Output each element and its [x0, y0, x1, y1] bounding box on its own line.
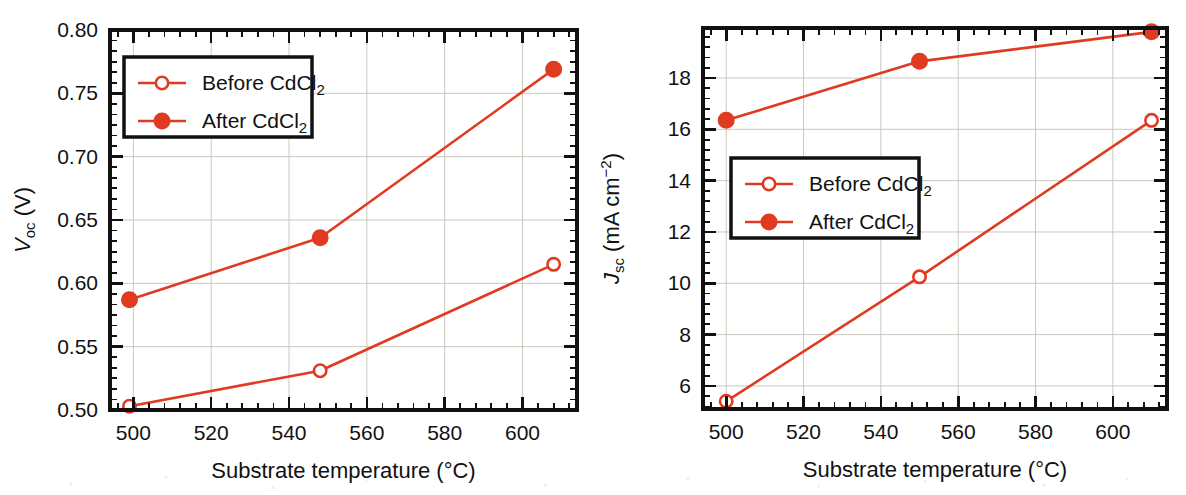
data-point-marker [122, 292, 137, 307]
y-tick-label: 10 [668, 271, 691, 294]
y-tick-label: 16 [668, 117, 691, 140]
data-point-marker [912, 54, 927, 69]
data-point-marker [1145, 114, 1157, 126]
legend-label: Before CdCl2 [809, 172, 932, 199]
data-point-marker [547, 258, 559, 270]
data-point-marker [546, 62, 561, 77]
data-point-marker [313, 230, 328, 245]
x-tick-label: 600 [505, 421, 540, 444]
legend: Before CdCl2After CdCl2 [731, 158, 932, 238]
legend-marker-open [763, 178, 775, 190]
x-tick-label: 580 [427, 421, 462, 444]
legend-marker-filled [762, 215, 777, 230]
x-tick-label: 600 [1095, 420, 1130, 443]
y-tick-label: 8 [679, 323, 691, 346]
y-tick-label: 0.75 [57, 81, 98, 104]
y-axis-title: Voc (V) [10, 187, 38, 253]
y-tick-label: 0.60 [57, 271, 98, 294]
x-tick-label: 580 [1018, 420, 1053, 443]
x-axis-title: Substrate temperature (°C) [803, 457, 1067, 482]
x-axis-title: Substrate temperature (°C) [211, 458, 475, 483]
x-tick-label: 540 [271, 421, 306, 444]
x-tick-label: 560 [349, 421, 384, 444]
y-tick-label: 14 [668, 169, 692, 192]
legend-marker-open [156, 77, 168, 89]
y-tick-label: 0.65 [57, 208, 98, 231]
y-tick-label: 0.80 [57, 18, 98, 41]
legend: Before CdCl2After CdCl2 [124, 57, 325, 137]
y-tick-label: 0.55 [57, 335, 98, 358]
legend-marker-filled [155, 114, 170, 129]
jsc-plot-svg: 500520540560580600681012141618Substrate … [593, 0, 1186, 495]
y-tick-label: 6 [679, 374, 691, 397]
legend-label: After CdCl2 [809, 210, 914, 237]
data-point-marker [719, 113, 734, 128]
legend-label: Before CdCl2 [202, 71, 325, 98]
x-tick-label: 500 [116, 421, 151, 444]
chart-panel-voc: 5005205405605806000.500.550.600.650.700.… [0, 0, 593, 495]
x-tick-label: 540 [863, 420, 898, 443]
data-point-marker [913, 271, 925, 283]
voc-plot-svg: 5005205405605806000.500.550.600.650.700.… [0, 0, 593, 495]
y-tick-label: 0.70 [57, 145, 98, 168]
y-tick-label: 18 [668, 66, 691, 89]
x-tick-label: 520 [786, 420, 821, 443]
x-tick-label: 560 [941, 420, 976, 443]
series-after [719, 24, 1159, 128]
chart-panel-jsc: 500520540560580600681012141618Substrate … [593, 0, 1186, 495]
y-tick-label: 0.50 [57, 398, 98, 421]
legend-label: After CdCl2 [202, 109, 307, 136]
tick-labels: 500520540560580600681012141618 [668, 66, 1131, 443]
data-point-marker [314, 365, 326, 377]
figure-two-panel-chart: 5005205405605806000.500.550.600.650.700.… [0, 0, 1186, 495]
y-axis-title: Jsc (mA cm−2) [597, 153, 627, 285]
x-tick-label: 520 [194, 421, 229, 444]
y-tick-label: 12 [668, 220, 691, 243]
x-tick-label: 500 [709, 420, 744, 443]
